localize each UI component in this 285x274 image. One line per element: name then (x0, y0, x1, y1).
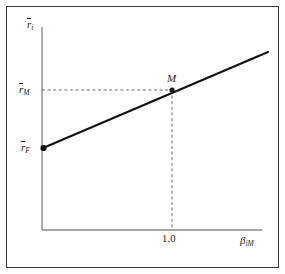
chart-canvas (0, 0, 285, 274)
x-tick-label-1.0: 1.0 (162, 233, 176, 244)
x-axis-label: βiM (240, 235, 254, 246)
y-tick-label-rM: rM (19, 84, 30, 95)
security-market-line (43, 52, 268, 148)
y-tick-rF-subscript: F (25, 146, 30, 155)
market-point-label: M (167, 72, 176, 84)
figure-container: ri rM rF 1.0 βiM M (0, 0, 285, 274)
y-axis-label: ri (27, 19, 33, 30)
risk-free-point-marker (40, 145, 46, 151)
x-axis-label-subscript: iM (245, 239, 253, 248)
y-tick-rM-subscript: M (23, 88, 29, 97)
y-tick-label-rF: rF (21, 142, 30, 153)
market-point-marker (169, 87, 174, 92)
